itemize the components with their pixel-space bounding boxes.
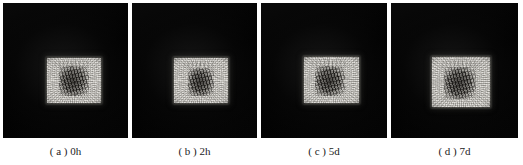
sample-texture-b <box>174 58 228 103</box>
sample-texture-d <box>432 57 490 107</box>
specimen-sample-b <box>174 58 228 103</box>
image-panel-c[interactable] <box>261 3 387 138</box>
panel-caption-b: ( b ) 2h <box>132 142 257 160</box>
image-panel-b[interactable] <box>132 3 257 138</box>
specimen-sample-d <box>432 57 490 107</box>
panel-row <box>0 0 523 140</box>
sample-texture-c <box>304 57 359 103</box>
panel-caption-c: ( c ) 5d <box>261 142 387 160</box>
panel-caption-a: ( a ) 0h <box>3 142 128 160</box>
specimen-sample-c <box>304 57 359 103</box>
panel-caption-d: ( d ) 7d <box>391 142 518 160</box>
sample-texture-a <box>47 58 101 103</box>
image-panel-a[interactable] <box>3 3 128 138</box>
specimen-sample-a <box>47 58 101 103</box>
figure-panel-grid: ( a ) 0h ( b ) 2h ( c ) 5d ( d ) 7d <box>0 0 523 165</box>
image-panel-d[interactable] <box>391 3 518 138</box>
